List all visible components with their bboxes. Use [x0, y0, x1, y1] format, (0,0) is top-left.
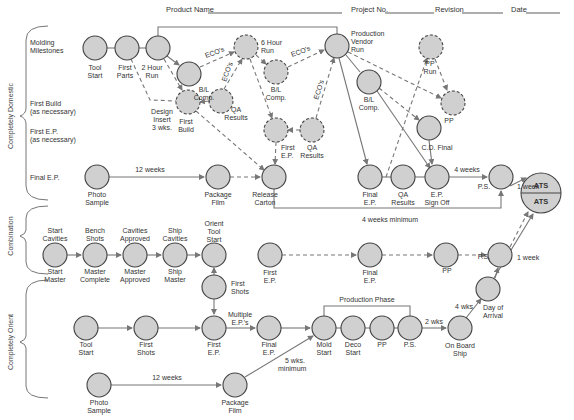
node-ep-sign-off[interactable]: [425, 165, 449, 189]
edge-label: 12 weeks: [135, 166, 165, 173]
label: E.P.: [431, 191, 443, 198]
label: QA: [231, 106, 241, 114]
label: E.P.'s: [231, 319, 249, 326]
label: QA: [398, 191, 408, 199]
row-label-milestones: Milestones: [30, 47, 64, 54]
label: First: [263, 269, 277, 276]
node-mold-start[interactable]: [312, 316, 336, 340]
label: Comp.: [359, 104, 380, 112]
node-release-carton[interactable]: [262, 165, 286, 189]
node-tool-start[interactable]: [83, 36, 107, 60]
label: Photo: [90, 399, 108, 406]
node-pp-run[interactable]: [419, 35, 443, 59]
label: Start: [79, 349, 94, 356]
node-first-parts[interactable]: [115, 36, 139, 60]
label: ATS: [534, 197, 548, 206]
label: Production: [351, 30, 385, 37]
label: Start: [88, 72, 103, 79]
label: QA: [307, 144, 317, 152]
label: Master: [124, 268, 146, 275]
node-deco-start[interactable]: [341, 316, 365, 340]
node-pp-cd-final[interactable]: [417, 116, 441, 140]
label: Sample: [87, 407, 111, 415]
label: Insert: [153, 116, 171, 123]
label: Photo: [88, 191, 106, 198]
node-on-board-ship[interactable]: [448, 316, 472, 340]
label: Bench: [85, 227, 105, 234]
label: Run: [424, 68, 437, 75]
node-qa-results-3[interactable]: [391, 165, 415, 189]
label: E.P.: [364, 277, 376, 284]
label: B/L: [199, 86, 210, 93]
edge-label: ECO's: [220, 61, 234, 83]
label: Cavities: [123, 227, 148, 234]
label: Sign Off: [424, 199, 449, 207]
node-cavities-approved[interactable]: [123, 243, 147, 267]
edge-label: 4 weeks minimum: [362, 216, 418, 223]
node-first-ep-orient[interactable]: [202, 316, 226, 340]
row-labels: Molding Milestones First Build (as neces…: [30, 39, 76, 181]
node-ats[interactable]: [521, 173, 561, 213]
node-tool-start-orient[interactable]: [74, 316, 98, 340]
node-first-shots-orient[interactable]: [134, 316, 158, 340]
label: Comp.: [194, 94, 215, 102]
label: Comp.: [266, 94, 287, 102]
label: Approved: [120, 235, 150, 243]
node-package-film-1[interactable]: [206, 165, 230, 189]
node-pp-orient[interactable]: [370, 316, 394, 340]
node-day-of-arrival[interactable]: [476, 277, 500, 301]
node-photo-sample-1[interactable]: [85, 165, 109, 189]
node-ps-2[interactable]: [488, 243, 512, 267]
label: Start: [346, 349, 361, 356]
label: Final: [261, 341, 277, 348]
label: Master: [84, 268, 106, 275]
label: Package: [204, 191, 231, 199]
label: E.P.: [281, 152, 293, 159]
node-qa-results-1[interactable]: [209, 89, 233, 113]
label: Cavities: [163, 235, 188, 242]
label: Complete: [80, 276, 110, 284]
node-ps-1[interactable]: [489, 165, 513, 189]
label: First: [179, 118, 193, 125]
node-orient-tool-start[interactable]: [202, 243, 226, 267]
label: Deco: [345, 341, 361, 348]
node-6-hour-run[interactable]: [234, 35, 258, 59]
node-start-cavities[interactable]: [43, 243, 67, 267]
label: PP: [444, 117, 454, 124]
node-bench-shots[interactable]: [83, 243, 107, 267]
section-label-domestic: Completely Domestic: [7, 82, 15, 149]
node-package-film-2[interactable]: [223, 373, 247, 397]
node-final-ep-orient[interactable]: [257, 316, 281, 340]
node-bl-comp-2[interactable]: [264, 60, 288, 84]
node-ps-orient[interactable]: [398, 316, 422, 340]
node-ship-cavities[interactable]: [163, 243, 187, 267]
node-bl-comp-1[interactable]: [177, 62, 201, 86]
node-qa-results-2[interactable]: [300, 118, 324, 142]
node-first-shots-comb[interactable]: [202, 275, 226, 299]
row-label-molding: Molding: [30, 39, 55, 47]
node-final-ep-comb[interactable]: [358, 243, 382, 267]
label: Run: [351, 46, 364, 53]
row-label-first-build: First Build: [30, 100, 61, 107]
node-first-ep-dashed[interactable]: [264, 118, 288, 142]
date-label: Date: [511, 5, 527, 14]
label: Vendor: [351, 38, 374, 45]
node-pp-comb[interactable]: [434, 243, 458, 267]
label: Start: [48, 268, 63, 275]
edge-label: 4 wks: [455, 303, 473, 310]
label: Run: [261, 47, 274, 54]
node-pp-dashed[interactable]: [441, 91, 465, 115]
edge-label: ECO's: [290, 44, 312, 58]
node-2-hour-run[interactable]: [146, 36, 170, 60]
node-production-vendor-run[interactable]: [325, 34, 349, 58]
node-photo-sample-2[interactable]: [87, 373, 111, 397]
label: Ship: [168, 268, 182, 276]
node-bl-comp-3[interactable]: [357, 70, 381, 94]
label: Ship: [168, 227, 182, 235]
label: Results: [300, 152, 324, 159]
label: Shots: [86, 235, 104, 242]
label: Cavities: [43, 235, 68, 242]
node-final-ep-1[interactable]: [358, 165, 382, 189]
edge-label: 1 week: [517, 254, 540, 261]
node-first-ep-comb[interactable]: [258, 243, 282, 267]
